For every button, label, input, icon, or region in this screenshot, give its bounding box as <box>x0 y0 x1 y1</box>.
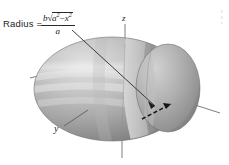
radius-label: Radius = <box>3 19 42 29</box>
ellipsoid-radius-figure: Radius = b√a2−x2 a z y <box>0 0 229 165</box>
y-axis-label: y <box>54 124 58 134</box>
radicand: a2−x2 <box>52 12 73 23</box>
z-axis-label: z <box>122 14 126 23</box>
formula-numerator: b√a2−x2 <box>41 12 75 24</box>
radicand-x-exponent: 2 <box>69 11 72 18</box>
scan-artifact <box>221 10 222 24</box>
radius-formula: b√a2−x2 a <box>41 12 75 36</box>
formula-denominator: a <box>41 26 75 36</box>
ellipsoid-right-cap <box>136 44 200 132</box>
